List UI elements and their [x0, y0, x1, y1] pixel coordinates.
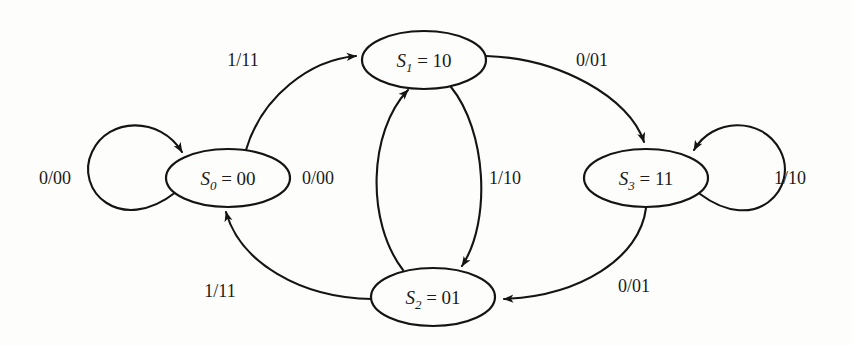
state-diagram-figure: 0/00 1/11 0/01 1/10 0/00 1/11 — [0, 0, 852, 346]
transition-s2-s1: 0/00 — [302, 90, 408, 270]
transition-label-s2-s0: 1/11 — [204, 281, 235, 301]
transition-label-s3-self: 1/10 — [774, 168, 806, 188]
transition-s3-self: 1/10 — [694, 125, 806, 210]
state-var-s2: S — [405, 287, 415, 308]
state-encoding-s1: 10 — [433, 50, 452, 71]
state-eq-sign-s0: = — [221, 168, 232, 189]
transition-path-s1-s2 — [451, 87, 481, 266]
state-eq-sign-s3: = — [639, 168, 650, 189]
transition-s0-s1: 1/11 — [227, 50, 356, 150]
state-eq-sign-s2: = — [426, 287, 437, 308]
state-encoding-s0: 00 — [237, 168, 256, 189]
transition-path-s2-s1 — [377, 90, 408, 270]
transition-s1-s2: 1/10 — [451, 87, 521, 266]
transition-path-s3-self — [694, 125, 785, 210]
state-var-s3: S — [619, 168, 629, 189]
transition-s2-s0: 1/11 — [204, 212, 372, 301]
state-encoding-s3: 11 — [655, 168, 673, 189]
state-node-s2[interactable]: S2 = 01 — [371, 268, 495, 326]
transition-path-s0-self — [88, 125, 182, 210]
transition-label-s0-self: 0/00 — [39, 168, 71, 188]
transition-label-s0-s1: 1/11 — [227, 50, 258, 70]
state-var-s0: S — [200, 168, 210, 189]
transition-s1-s3: 0/01 — [486, 50, 644, 142]
transition-path-s2-s0 — [226, 212, 372, 299]
transition-path-s1-s3 — [486, 56, 644, 142]
transition-label-s1-s3: 0/01 — [576, 50, 608, 70]
state-diagram-canvas: 0/00 1/11 0/01 1/10 0/00 1/11 — [0, 0, 852, 346]
transition-path-s0-s1 — [246, 56, 356, 150]
state-node-s3[interactable]: S3 = 11 — [584, 149, 708, 207]
state-node-s1[interactable]: S1 = 10 — [362, 31, 486, 89]
state-node-s0[interactable]: S0 = 00 — [166, 149, 290, 207]
transition-s0-self: 0/00 — [39, 125, 182, 210]
transition-label-s1-s2: 1/10 — [489, 168, 521, 188]
transition-label-s2-s1: 0/00 — [302, 168, 334, 188]
state-encoding-s2: 01 — [442, 287, 461, 308]
state-var-s1: S — [396, 50, 406, 71]
transition-s3-s2: 0/01 — [504, 208, 650, 299]
state-eq-sign-s1: = — [417, 50, 428, 71]
transition-label-s3-s2: 0/01 — [618, 276, 650, 296]
